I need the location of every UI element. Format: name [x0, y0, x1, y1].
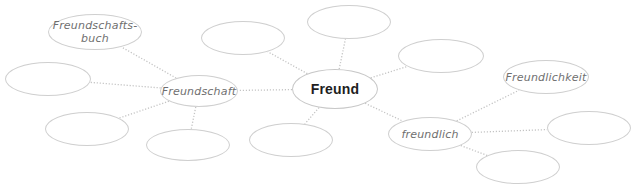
empty-node-blank-9[interactable] [476, 150, 560, 184]
empty-node-blank-6[interactable] [249, 123, 333, 157]
connector-freund-blank-4 [268, 52, 308, 74]
node-freundschaftsbuch: Freundschafts- buch [48, 14, 142, 50]
node-freund: Freund [292, 69, 378, 109]
empty-node-blank-4[interactable] [201, 21, 285, 55]
connector-freundlich-blank-9 [461, 146, 487, 156]
empty-node-blank-5[interactable] [307, 5, 391, 39]
node-label: Freundlichkeit [506, 71, 587, 84]
connector-freund-freundschaft [238, 90, 292, 91]
empty-node-blank-8[interactable] [547, 111, 631, 145]
connector-freundschaft-blank-1 [90, 82, 161, 88]
node-label: Freundschaft [162, 85, 237, 98]
connector-freund-blank-5 [339, 39, 345, 69]
connector-freundschaft-blank-3 [191, 107, 196, 129]
connector-freund-blank-6 [305, 108, 319, 124]
empty-node-blank-2[interactable] [45, 112, 129, 146]
connector-freundschaft-freundschaftsbuch [121, 47, 176, 78]
connector-freundlich-blank-8 [472, 130, 547, 133]
node-label: freundlich [401, 128, 458, 141]
node-label: Freundschafts- buch [53, 19, 138, 45]
empty-node-blank-3[interactable] [146, 129, 230, 161]
node-freundlich: freundlich [388, 117, 472, 151]
connector-freund-blank-7 [371, 67, 407, 78]
connector-freund-freundlich [365, 103, 403, 121]
node-freundlichkeit: Freundlichkeit [503, 60, 589, 94]
node-freundschaft: Freundschaft [160, 75, 238, 107]
empty-node-blank-1[interactable] [5, 62, 91, 96]
node-label: Freund [311, 83, 360, 96]
connector-freundschaft-blank-2 [119, 101, 169, 118]
connector-freundlich-freundlichkeit [457, 90, 519, 121]
empty-node-blank-7[interactable] [398, 39, 484, 73]
